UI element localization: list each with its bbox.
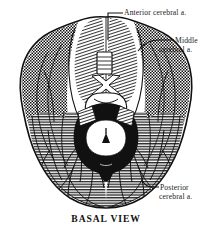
label-middle-line1: Middle [175, 36, 198, 45]
label-posterior-line2: cerebral a. [159, 192, 192, 201]
label-middle-cerebral-artery: Middle cerebral a. [175, 36, 208, 55]
label-posterior-cerebral-artery: Posterior cerebral a. [160, 183, 193, 202]
label-posterior-line1: Posterior [160, 183, 189, 192]
infundibulum [97, 52, 112, 74]
label-anterior-line1: Anterior cerebral a. [124, 8, 186, 17]
label-anterior-cerebral-artery: Anterior cerebral a. [124, 8, 186, 17]
figure-caption: BASAL VIEW [0, 213, 212, 224]
label-middle-line2: cerebral a. [159, 45, 192, 54]
figure-basal-view-brain-arteries: Anterior cerebral a. Middle cerebral a. … [0, 0, 212, 233]
